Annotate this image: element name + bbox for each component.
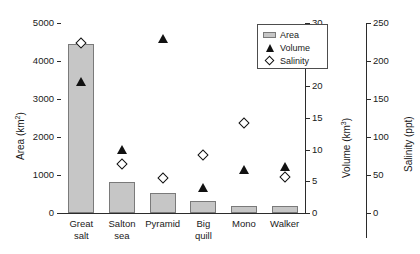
- axis-tick-label: 20: [312, 81, 323, 91]
- legend-glyph: [263, 32, 276, 38]
- x-tick-label-line: Walker: [257, 218, 313, 230]
- axis-tick: [367, 23, 371, 24]
- axis-tick-label: 250: [373, 18, 389, 28]
- bar-walker: [272, 206, 298, 213]
- axis-tick-label: 15: [312, 113, 323, 123]
- chart-legend: AreaVolumeSalinity: [257, 24, 328, 69]
- axis-tick: [57, 213, 61, 214]
- chart-figure: 010002000300040005000 051015202530 05010…: [0, 0, 420, 254]
- x-tick-label-line: sea: [94, 230, 150, 242]
- diamond-marker-icon: [262, 57, 277, 64]
- axis-tick-label: 0: [373, 208, 378, 218]
- axis-tick: [57, 175, 61, 176]
- legend-label: Volume: [280, 43, 310, 53]
- volume-marker-walker: [280, 162, 290, 171]
- bar-mono: [231, 206, 257, 213]
- axis-tick: [367, 61, 371, 62]
- volume-axis-title: Volume (km3): [340, 118, 352, 178]
- bar-big-quill: [190, 201, 216, 213]
- bar-great-salt: [68, 44, 94, 213]
- bar-pyramid: [150, 193, 176, 213]
- volume-axis-title-base: Volume (km: [341, 125, 352, 178]
- volume-marker-pyramid: [158, 34, 168, 43]
- axis-tick: [367, 175, 371, 176]
- bar-salton-sea: [109, 182, 135, 213]
- axis-tick-label: 1000: [20, 170, 54, 180]
- left-axis-title-exponent: 2: [14, 116, 21, 120]
- axis-tick-label: 3000: [20, 94, 54, 104]
- axis-tick-label: 4000: [20, 56, 54, 66]
- axis-tick: [367, 213, 371, 214]
- axis-tick: [57, 61, 61, 62]
- axis-tick-label: 50: [373, 170, 384, 180]
- axis-tick: [306, 150, 310, 151]
- bar-swatch-icon: [262, 32, 277, 38]
- bottom-axis-line: [61, 213, 306, 214]
- axis-tick: [57, 99, 61, 100]
- axis-tick: [367, 99, 371, 100]
- volume-marker-salton-sea: [117, 145, 127, 154]
- x-tick-label-walker: Walker: [257, 218, 313, 230]
- axis-tick: [306, 181, 310, 182]
- salinity-axis-line: [366, 23, 367, 238]
- volume-marker-great-salt: [76, 77, 86, 86]
- volume-axis-title-exponent: 3: [340, 121, 347, 125]
- left-axis-title: Area (km2): [14, 112, 26, 160]
- axis-tick: [306, 86, 310, 87]
- volume-marker-big-quill: [198, 183, 208, 192]
- axis-tick: [306, 213, 310, 214]
- salinity-axis-title-base: Salinity (ppt): [403, 116, 414, 172]
- axis-tick: [57, 137, 61, 138]
- legend-label: Salinity: [280, 56, 309, 66]
- axis-tick-label: 0: [20, 208, 54, 218]
- legend-label: Area: [280, 30, 299, 40]
- axis-tick: [306, 118, 310, 119]
- left-axis-title-base: Area (km: [15, 119, 26, 160]
- salinity-axis-title: Salinity (ppt): [403, 116, 414, 172]
- axis-tick-label: 150: [373, 94, 389, 104]
- volume-marker-mono: [239, 165, 249, 174]
- axis-tick-label: 10: [312, 145, 323, 155]
- axis-tick-label: 5000: [20, 18, 54, 28]
- axis-tick-label: 200: [373, 56, 389, 66]
- axis-tick-label: 100: [373, 132, 389, 142]
- axis-tick: [367, 137, 371, 138]
- axis-tick-label: 5: [312, 176, 317, 186]
- left-axis-title-tail: ): [15, 112, 26, 115]
- axis-tick: [57, 23, 61, 24]
- legend-item-volume: Volume: [262, 41, 327, 54]
- legend-item-salinity: Salinity: [262, 54, 327, 67]
- axis-tick-label: 0: [312, 208, 317, 218]
- x-tick-label-line: quill: [175, 230, 231, 242]
- triangle-marker-icon: [262, 44, 277, 52]
- legend-item-area: Area: [262, 28, 327, 41]
- legend-glyph: [266, 44, 274, 52]
- volume-axis-title-tail: ): [341, 118, 352, 121]
- legend-glyph: [265, 56, 275, 66]
